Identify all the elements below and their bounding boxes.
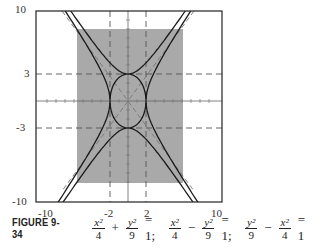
fraction: y²9 <box>202 216 214 241</box>
y-tick-label: 10 <box>15 3 26 15</box>
fraction: y²9 <box>126 216 138 241</box>
conic-sections-plot <box>0 0 315 210</box>
equation-hyperbola-y: y²9 − x²4 = 1 <box>242 212 315 244</box>
fraction: y²9 <box>245 216 257 241</box>
fraction: x²4 <box>169 216 181 241</box>
y-tick-label: -3 <box>16 121 25 133</box>
figure-label: FIGURE 9-34 <box>12 216 68 240</box>
fraction: x²4 <box>279 216 291 241</box>
y-tick-label: 3 <box>24 67 30 79</box>
equation-hyperbola-x: x²4 − y²9 = 1; <box>166 212 242 244</box>
fraction: x²4 <box>92 216 104 241</box>
figure-caption: FIGURE 9-34 x²4 + y²9 = 1; x²4 − y²9 = 1… <box>12 210 315 246</box>
equation-ellipse: x²4 + y²9 = 1; <box>89 212 165 244</box>
y-tick-label: -10 <box>12 195 27 207</box>
